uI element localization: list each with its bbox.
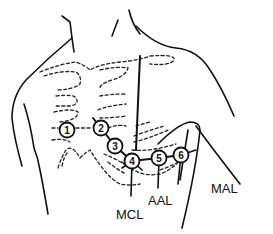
torso-outline (12, 10, 240, 228)
svg-text:4: 4 (129, 156, 135, 167)
electrode-v4: 4 (125, 154, 140, 169)
electrode-v2: 2 (94, 121, 109, 136)
svg-text:6: 6 (178, 150, 184, 161)
chest-illustration: 1 2 3 4 5 6 (0, 0, 273, 234)
electrode-v3: 3 (108, 139, 123, 154)
sternal-line (136, 56, 140, 150)
svg-text:3: 3 (112, 141, 118, 152)
ecg-lead-placement-diagram: 1 2 3 4 5 6 MCL AAL MAL (0, 0, 273, 234)
label-mcl: MCL (116, 208, 143, 221)
label-aal: AAL (148, 194, 173, 207)
label-mal: MAL (211, 182, 238, 195)
svg-text:5: 5 (156, 153, 162, 164)
electrode-v1: 1 (60, 123, 75, 138)
electrode-v5: 5 (152, 151, 167, 166)
svg-text:2: 2 (98, 123, 104, 134)
electrode-v6: 6 (174, 148, 189, 163)
svg-text:1: 1 (64, 125, 70, 136)
